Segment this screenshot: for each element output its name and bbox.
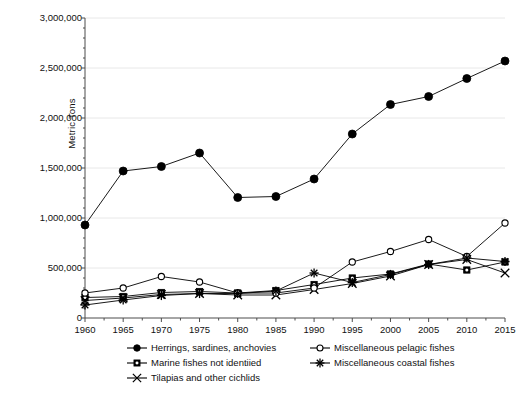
data-point-plus-star [310, 268, 319, 277]
data-point-filled-square [464, 267, 470, 273]
data-point-open-circle [426, 236, 432, 242]
legend-item[interactable]: Tilapias and other cichlids [126, 371, 316, 385]
data-point-filled-circle [119, 167, 127, 175]
legend-item-label: Miscellaneous pelagic fishes [331, 342, 454, 354]
chart-legend: Herrings, sardines, anchoviesMarine fish… [126, 341, 518, 389]
series-0 [85, 61, 505, 225]
data-point-open-circle [158, 273, 164, 279]
data-point-plus-star [233, 289, 242, 298]
data-point-plus-star [195, 289, 204, 298]
legend-marker-plus-star [309, 357, 331, 369]
legend-marker-x-cross [126, 372, 148, 384]
data-point-open-circle [502, 220, 508, 226]
data-point-filled-circle [463, 75, 471, 83]
data-point-filled-square [134, 360, 140, 366]
data-point-filled-circle [310, 175, 318, 183]
data-point-plus-star [386, 270, 395, 279]
data-point-plus-star [348, 278, 357, 287]
series-3 [85, 223, 505, 293]
data-point-plus-star [80, 300, 89, 309]
legend-item-label: Miscellaneous coastal fishes [331, 357, 454, 369]
series-4 [85, 258, 505, 305]
series-markers-3 [82, 220, 508, 296]
legend-item[interactable]: Miscellaneous pelagic fishes [309, 341, 518, 355]
data-point-open-circle [120, 285, 126, 291]
data-point-open-circle [82, 290, 88, 296]
data-point-filled-circle [234, 194, 242, 202]
legend-marker-open-circle [309, 342, 331, 354]
data-point-open-circle [349, 259, 355, 265]
legend-column-2: Miscellaneous pelagic fishesMiscellaneou… [309, 341, 518, 371]
data-point-filled-circle [425, 93, 433, 101]
data-point-plus-star [157, 291, 166, 300]
data-point-plus-star [316, 359, 325, 368]
legend-item-label: Marine fishes not identiied [148, 357, 261, 369]
legend-item-label: Herrings, sardines, anchovies [148, 342, 276, 354]
data-point-filled-circle [157, 163, 165, 171]
data-point-open-circle [317, 345, 323, 351]
legend-marker-filled-circle [126, 342, 148, 354]
data-point-plus-star [119, 295, 128, 304]
data-point-plus-star [500, 257, 509, 266]
legend-column-1: Herrings, sardines, anchoviesMarine fish… [126, 341, 316, 386]
legend-item[interactable]: Herrings, sardines, anchovies [126, 341, 316, 355]
data-point-plus-star [462, 253, 471, 262]
data-point-filled-circle [386, 101, 394, 109]
data-point-filled-circle [134, 345, 141, 352]
data-point-filled-circle [196, 149, 204, 157]
chart-figure: Metric Tons 0500,0001,000,0001,500,0002,… [0, 0, 518, 395]
data-point-filled-circle [501, 57, 509, 65]
plot-area [0, 0, 518, 395]
legend-item-label: Tilapias and other cichlids [148, 372, 260, 384]
legend-item[interactable]: Marine fishes not identiied [126, 356, 316, 370]
data-point-open-circle [387, 248, 393, 254]
legend-marker-filled-square [126, 357, 148, 369]
data-point-open-circle [311, 285, 317, 291]
data-point-x-cross [501, 269, 510, 278]
data-point-filled-circle [348, 130, 356, 138]
data-point-plus-star [424, 260, 433, 269]
data-point-plus-star [271, 286, 280, 295]
legend-item[interactable]: Miscellaneous coastal fishes [309, 356, 518, 370]
series-markers-0 [81, 57, 509, 229]
data-point-open-circle [196, 279, 202, 285]
data-point-filled-circle [81, 221, 89, 229]
data-point-filled-circle [272, 193, 280, 201]
